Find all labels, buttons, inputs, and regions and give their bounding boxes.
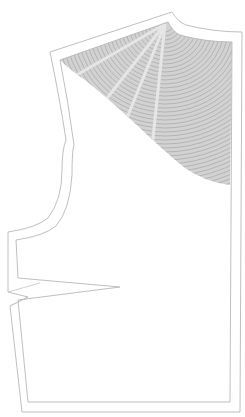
pattern-diagram: [0, 0, 245, 417]
side-dart: [8, 283, 40, 306]
shaded-pleat-region: [0, 0, 245, 417]
pattern-canvas: [0, 0, 245, 417]
